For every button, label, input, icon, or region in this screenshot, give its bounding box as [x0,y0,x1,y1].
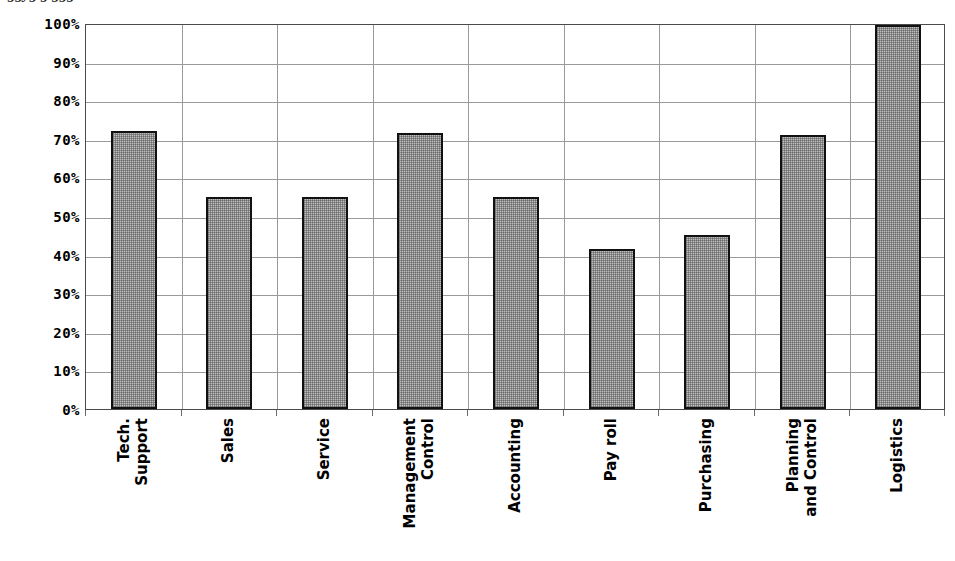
bar [780,135,826,409]
x-axis-tick [754,410,755,416]
x-axis-ticks [85,410,945,417]
y-axis-tick-label: 70% [8,133,80,147]
y-axis-tick-label: 20% [8,326,80,340]
bar [397,133,443,409]
x-axis-category-label-line: Accounting [506,418,524,513]
bar [302,197,348,409]
y-axis-tick-label: 60% [8,171,80,185]
y-axis-tick-label: 10% [8,364,80,378]
x-axis-category-label-line: Logistics [888,418,906,493]
x-axis-tick [658,410,659,416]
x-axis-category-label-line: Tech. [114,418,132,462]
x-axis-category-label-line: Planning [783,418,801,492]
x-axis-category-label-line: Purchasing [697,418,715,512]
bar [684,235,730,409]
x-axis-tick [276,410,277,416]
x-axis-category-label-line: Sales [219,418,237,463]
x-axis-category-label-line: and Control [802,418,820,517]
x-axis-category-label: Tech.Support [85,418,181,561]
x-axis-tick [467,410,468,416]
bar [875,25,921,409]
bar [206,197,252,409]
x-axis-category-labels: Tech.SupportSalesServiceManagementContro… [85,418,945,561]
x-axis-category-label-line: Management [401,418,419,528]
x-axis-tick [85,410,86,416]
x-axis-category-label: Sales [180,418,276,561]
x-axis-category-label: Service [276,418,372,561]
x-axis-tick [944,410,945,416]
y-axis-tick-label: 30% [8,287,80,301]
x-axis-category-label: Logistics [849,418,945,561]
bar-chart-figure: ggyg g ggg 100%90%80%70%60%50%40%30%20%1… [0,0,955,561]
y-axis-tick-label: 0% [8,403,80,417]
x-axis-category-label-line: Control [419,418,437,480]
x-axis-tick [563,410,564,416]
y-axis-tick-label: 50% [8,210,80,224]
y-axis: 100%90%80%70%60%50%40%30%20%10%0% [0,0,80,561]
bar-series [86,25,944,409]
x-axis-category-label: Pay roll [563,418,659,561]
bar [589,249,635,409]
x-axis-category-label: ManagementControl [371,418,467,561]
x-axis-category-label-line: Pay roll [601,418,619,481]
x-axis-category-label: Purchasing [658,418,754,561]
x-axis-category-label: Accounting [467,418,563,561]
y-axis-tick-label: 90% [8,56,80,70]
x-axis-tick [372,410,373,416]
y-axis-tick-label: 40% [8,249,80,263]
x-axis-tick [181,410,182,416]
y-axis-tick-label: 80% [8,94,80,108]
bar [111,131,157,409]
clipped-chart-title: ggyg g ggg [0,0,955,2]
x-axis-category-label: Planningand Control [754,418,850,561]
bar [493,197,539,409]
y-axis-tick-label: 100% [8,17,80,31]
plot-area [85,24,945,410]
x-axis-category-label-line: Support [133,418,151,486]
x-axis-category-label-line: Service [315,418,333,480]
x-axis-tick [849,410,850,416]
